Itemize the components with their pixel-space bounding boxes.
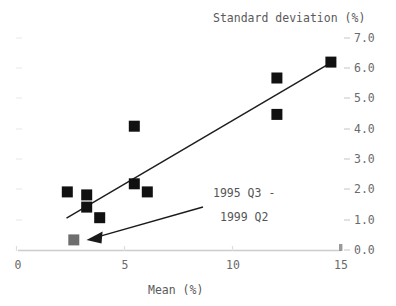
x-axis-title: Mean (%) <box>148 283 203 297</box>
y-tick-label-0: 0.0 <box>354 243 375 257</box>
y-tick-label-7: 7.0 <box>354 31 375 45</box>
annotation-label-line-2: 1999 Q2 <box>220 207 268 228</box>
x-tick-label-5: 5 <box>122 258 129 272</box>
x-tick-label-0: 0 <box>15 258 22 272</box>
x-axis-end-cap <box>339 244 342 251</box>
data-point <box>325 57 336 68</box>
y-axis-tick-marks-right <box>344 38 350 250</box>
y-tick-label-3: 3.0 <box>354 152 375 166</box>
data-point <box>62 186 73 197</box>
data-point <box>129 178 140 189</box>
data-point <box>94 212 105 223</box>
y-axis-title: Standard deviation (%) <box>213 11 365 25</box>
y-tick-label-2: 2.0 <box>354 182 375 196</box>
data-point <box>271 73 282 84</box>
y-tick-label-5: 5.0 <box>354 91 375 105</box>
data-point <box>129 121 140 132</box>
annotation-label-line-1: 1995 Q3 - <box>213 183 275 204</box>
data-point <box>81 202 92 213</box>
scatter-chart: Standard deviation (%) Mean (%) 7.0 6.0 … <box>0 0 396 306</box>
data-point <box>271 109 282 120</box>
highlighted-data-point <box>68 234 79 245</box>
x-tick-label-15: 15 <box>334 258 348 272</box>
y-tick-label-6: 6.0 <box>354 61 375 75</box>
x-tick-label-10: 10 <box>226 258 240 272</box>
trend-line <box>67 62 332 218</box>
data-point <box>142 186 153 197</box>
y-axis-tick-marks-left <box>16 38 22 220</box>
y-tick-label-4: 4.0 <box>354 122 375 136</box>
data-point <box>81 189 92 200</box>
y-tick-label-1: 1.0 <box>354 213 375 227</box>
